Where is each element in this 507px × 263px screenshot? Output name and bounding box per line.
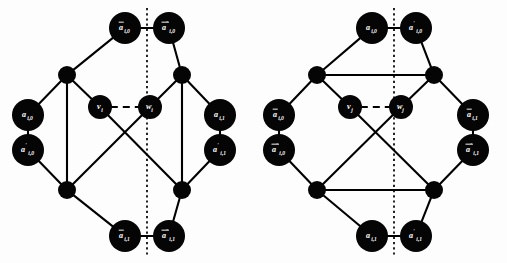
node-disc [109, 220, 141, 252]
graph-edge-solid [421, 197, 431, 222]
node-disc [12, 99, 44, 131]
graph-edge-solid [358, 115, 429, 185]
graph-node-hub-hub_bot_right[interactable] [425, 181, 443, 199]
graph-node-side_left_dn[interactable]: a′i,0 [263, 134, 295, 166]
graph-node-bot_right[interactable]: a′i,1 [153, 220, 185, 252]
graph-edge-solid [323, 38, 361, 70]
node-disc [263, 99, 295, 131]
node-disc [308, 181, 326, 199]
graph-edge-solid [289, 81, 311, 105]
edge-group [28, 28, 220, 236]
node-disc [173, 66, 191, 84]
graph-edge-solid [173, 198, 180, 222]
graph-edge-solid [73, 37, 113, 70]
graph-node-hub-hub_top_right[interactable] [425, 66, 443, 84]
node-disc [425, 181, 443, 199]
graph-node-center_v[interactable]: vi [88, 95, 112, 119]
node-disc [400, 220, 432, 252]
graph-node-center_v[interactable]: vj [338, 95, 362, 119]
graph-node-bot_left[interactable]: ai,1 [356, 220, 388, 252]
node-disc [389, 95, 413, 119]
node-disc [153, 12, 185, 44]
node-disc [338, 95, 362, 119]
graph-edge-solid [38, 81, 61, 105]
graph-edge-solid [108, 115, 177, 185]
graph-node-bot_left[interactable]: ai,1 [109, 220, 141, 252]
graph-node-hub-hub_top_right[interactable] [173, 66, 191, 84]
node-disc [109, 12, 141, 44]
graph-edge-solid [323, 115, 394, 185]
graph-node-hub-hub_top_left[interactable] [58, 66, 76, 84]
node-disc [425, 66, 443, 84]
node-disc [153, 220, 185, 252]
graph-edge-solid [187, 161, 209, 185]
node-disc [457, 134, 489, 166]
node-disc [457, 99, 489, 131]
graph-edge-solid [38, 161, 61, 185]
graph-edge-solid [73, 195, 113, 227]
graph-node-bot_right[interactable]: a′i,1 [400, 220, 432, 252]
graph-node-center_w[interactable]: wi [138, 95, 162, 119]
graph-node-hub-hub_bot_right[interactable] [173, 181, 191, 199]
node-disc [58, 181, 76, 199]
node-disc [12, 134, 44, 166]
node-disc [356, 12, 388, 44]
graph-edge-solid [439, 161, 462, 185]
node-disc [88, 95, 112, 119]
graph-node-side_left_up[interactable]: ai,0 [263, 99, 295, 131]
graph-node-hub-hub_bot_left[interactable] [58, 181, 76, 199]
graph-node-top_right[interactable]: a′i,0 [153, 12, 185, 44]
graph-edge-solid [173, 42, 180, 67]
node-disc [400, 12, 432, 44]
graph-edge-solid [158, 81, 177, 100]
graph-node-top_left[interactable]: ai,0 [356, 12, 388, 44]
graph-edge-solid [289, 161, 311, 185]
graph-node-side_right_up[interactable]: ai,1 [457, 99, 489, 131]
node-disc [263, 134, 295, 166]
graph-edge-solid [409, 80, 429, 99]
graph-node-side_left_up[interactable]: ai,0 [12, 99, 44, 131]
graph-node-top_right[interactable]: a′i,0 [400, 12, 432, 44]
gadget-right: ai,0a′i,0ai,0a′i,0vjwjai,1a′i,1ai,1a′i,1 [254, 0, 507, 263]
graph-node-center_w[interactable]: wj [389, 95, 413, 119]
graph-edge-solid [421, 42, 431, 68]
figure-root: ai,0a′i,0ai,0a′i,0viwiai,1a′i,1ai,1a′i,1… [0, 0, 507, 263]
node-disc [204, 134, 236, 166]
node-disc [58, 66, 76, 84]
graph-node-hub-hub_bot_left[interactable] [308, 181, 326, 199]
edge-group [279, 28, 473, 236]
graph-node-hub-hub_top_left[interactable] [308, 66, 326, 84]
graph-edge-solid [323, 195, 361, 227]
graph-edge-solid [73, 115, 143, 185]
graph-node-side_left_dn[interactable]: a′i,0 [12, 134, 44, 166]
gadget-left: ai,0a′i,0ai,0a′i,0viwiai,1a′i,1ai,1a′i,1 [0, 0, 253, 263]
graph-edge-solid [439, 81, 462, 105]
node-disc [138, 95, 162, 119]
node-disc [356, 220, 388, 252]
graph-edge-solid [187, 81, 209, 105]
graph-node-side_right_dn[interactable]: a′i,1 [204, 134, 236, 166]
graph-node-side_right_up[interactable]: ai,1 [204, 99, 236, 131]
node-disc [204, 99, 236, 131]
graph-edge-solid [323, 80, 343, 99]
graph-node-side_right_dn[interactable]: a′i,1 [457, 134, 489, 166]
node-disc [173, 181, 191, 199]
graph-node-top_left[interactable]: ai,0 [109, 12, 141, 44]
node-disc [308, 66, 326, 84]
graph-edge-solid [73, 80, 93, 99]
